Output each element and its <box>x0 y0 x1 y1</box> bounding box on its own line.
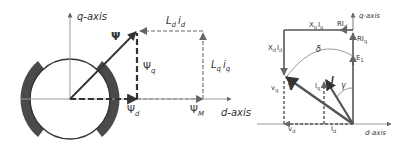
left-phasor-diagram: q-axis d-axis Ψ Ψq Ψd ΨM Ldid Lqiq <box>20 11 251 139</box>
delta-label: δ <box>316 45 321 54</box>
vd-label: vd <box>288 125 295 134</box>
riq-label: RIq <box>357 35 367 45</box>
right-d-axis-label: d-axis <box>365 129 386 137</box>
left-q-axis-label: q-axis <box>77 11 107 22</box>
vq-label: vq <box>271 84 278 94</box>
i-label: I <box>331 76 334 85</box>
right-q-axis-label: q-axis <box>359 12 380 20</box>
psi-m-label: ΨM <box>190 104 204 118</box>
lqiq-label: Lqiq <box>211 59 231 73</box>
e1-label: E1 <box>356 54 364 63</box>
psi-d-label: Ψd <box>127 104 140 118</box>
right-phasor-diagram: q-axis d-axis XqIq RId RIq E1 XdId δ V v… <box>257 12 391 137</box>
id-label: Id <box>331 125 336 134</box>
ldid-label: Ldid <box>166 15 186 29</box>
left-d-axis-label: d-axis <box>221 107 251 118</box>
iq-label: Iq <box>315 82 320 92</box>
psi-label: Ψ <box>111 30 120 43</box>
i-vector <box>326 80 353 124</box>
psi-vector <box>70 32 136 99</box>
psi-q-label: Ψq <box>143 61 156 75</box>
rid-label: RId <box>337 20 347 29</box>
v-label: V <box>288 83 295 92</box>
diagram-canvas: q-axis d-axis Ψ Ψq Ψd ΨM Ldid Lqiq <box>0 0 409 145</box>
xdid-label: XdId <box>268 44 282 53</box>
